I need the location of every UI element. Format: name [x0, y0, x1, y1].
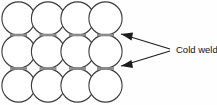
particle-circle	[2, 35, 35, 68]
particle-circle	[31, 35, 64, 68]
particle-circle	[31, 2, 64, 35]
particle-circle	[89, 2, 122, 35]
cold-weld-diagram: Cold weld	[0, 0, 217, 105]
particle-circle	[2, 69, 35, 102]
arrow-head-upper-icon	[121, 33, 133, 41]
particle-circle	[89, 69, 122, 102]
diagram-canvas: Cold weld	[0, 0, 217, 105]
particle-circle	[2, 2, 35, 35]
arrow-head-lower-icon	[121, 60, 133, 68]
callout-leader-group	[121, 33, 170, 69]
cold-weld-label: Cold weld	[176, 44, 217, 55]
particle-packing-group	[2, 2, 122, 102]
particle-circle	[89, 35, 122, 68]
particle-circle	[31, 69, 64, 102]
